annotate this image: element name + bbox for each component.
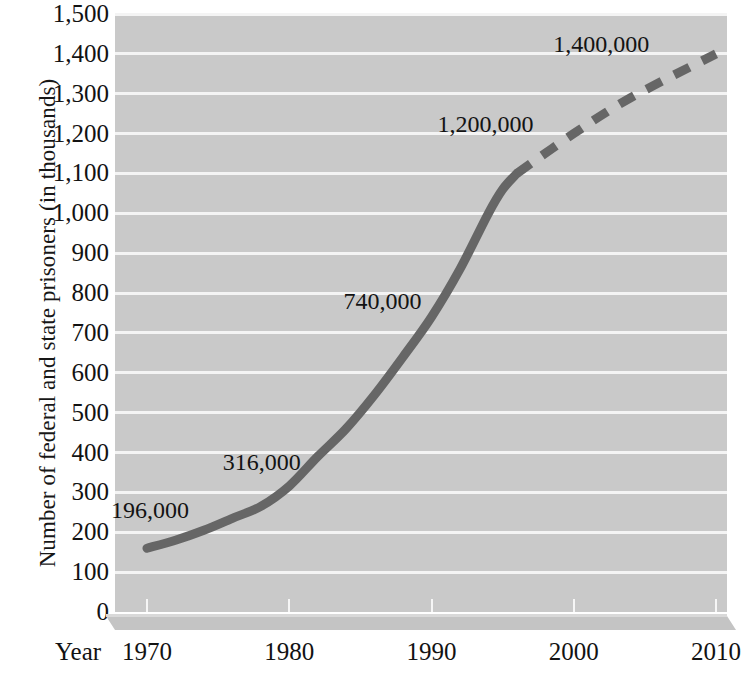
data-point-label: 316,000	[223, 450, 301, 474]
y-tick-label: 700	[31, 320, 109, 345]
y-tick-label: 600	[31, 360, 109, 385]
x-tick-label: 2010	[661, 638, 745, 666]
data-point-label: 1,200,000	[438, 112, 534, 136]
data-point-label: 1,400,000	[553, 32, 649, 56]
y-tick-label: 1,300	[31, 81, 109, 106]
y-tick-label: 900	[31, 240, 109, 265]
x-tick-label: 1980	[234, 638, 344, 666]
x-tick-label: 1990	[377, 638, 487, 666]
series-actual-solid	[147, 173, 517, 548]
y-tick-label: 100	[31, 559, 109, 584]
y-tick-label: 500	[31, 400, 109, 425]
y-tick-label: 200	[31, 519, 109, 544]
y-tick-label: 1,200	[31, 121, 109, 146]
y-tick-label: 1,000	[31, 200, 109, 225]
y-tick-label: 400	[31, 440, 109, 465]
x-tick-label: 2000	[519, 638, 629, 666]
axis-base-slab	[106, 612, 736, 631]
y-tick-label: 1,100	[31, 160, 109, 185]
y-tick-label: 800	[31, 280, 109, 305]
y-axis-tick-labels: 01002003004005006007008009001,0001,1001,…	[27, 0, 109, 677]
x-axis-tick-labels: 19701980199020002010	[0, 638, 739, 672]
series-projected-dashed	[517, 54, 716, 174]
x-tick-label: 1970	[92, 638, 202, 666]
data-point-label: 740,000	[344, 289, 422, 313]
y-tick-label: 300	[31, 479, 109, 504]
plot-area: 196,000316,000740,0001,200,0001,400,000	[115, 14, 727, 612]
y-tick-label: 0	[31, 599, 109, 624]
y-tick-label: 1,500	[31, 1, 109, 26]
data-point-label: 196,000	[111, 498, 189, 522]
y-tick-label: 1,400	[31, 41, 109, 66]
